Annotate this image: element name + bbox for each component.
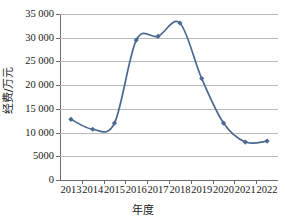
x-axis-tick-label: 2022 <box>257 185 278 196</box>
x-axis-tick-label: 2014 <box>82 185 103 196</box>
series-line-funding <box>71 21 267 143</box>
x-axis-tick-labels: 2013201420152016201720182019202020212022 <box>0 185 285 201</box>
x-axis-tick-label: 2018 <box>169 185 190 196</box>
x-axis-tick-label: 2021 <box>235 185 256 196</box>
data-point-marker <box>265 139 270 144</box>
x-axis-title: 年度 <box>0 201 285 217</box>
data-point-marker <box>199 76 204 81</box>
x-axis-tick-label: 2019 <box>191 185 212 196</box>
x-axis-tick-label: 2015 <box>104 185 125 196</box>
x-axis-tick-label: 2017 <box>148 185 169 196</box>
data-point-marker <box>90 127 95 132</box>
series-markers-group <box>68 20 269 144</box>
data-point-marker <box>243 139 248 144</box>
line-chart: 经费/万元 0500010 00015 00020 00025 00030 00… <box>0 0 285 220</box>
x-axis-tick-label: 2016 <box>126 185 147 196</box>
x-axis-tick-label: 2013 <box>60 185 81 196</box>
x-axis-tick-label: 2020 <box>213 185 234 196</box>
